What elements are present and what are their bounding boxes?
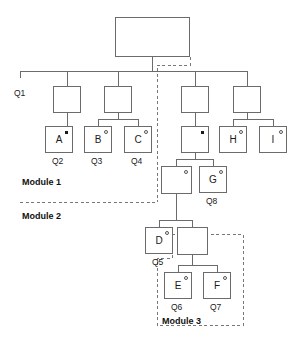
node-box-n5[interactable] (181, 126, 209, 153)
node-box-n4[interactable] (233, 86, 261, 113)
node-label: A (46, 135, 72, 145)
tree-diagram: ABCHIGDEF Q1Q2Q3Q4Q8Q5Q6Q7 Module 1Modul… (0, 0, 300, 338)
node-box-n6[interactable] (161, 166, 192, 194)
open-circle-marker-icon (104, 130, 108, 134)
question-label-q2: Q2 (52, 157, 63, 166)
node-label: I (260, 135, 286, 145)
node-box-a[interactable]: A (45, 126, 73, 153)
node-box-c[interactable]: C (124, 126, 152, 153)
asterisk-marker-icon (65, 131, 68, 134)
module-label-3: Module 3 (162, 317, 201, 326)
open-circle-marker-icon (184, 276, 188, 280)
question-label-q5: Q5 (152, 258, 163, 267)
question-label-q3: Q3 (91, 157, 102, 166)
node-box-b[interactable]: B (84, 126, 112, 153)
node-label: B (85, 135, 111, 145)
open-circle-marker-icon (184, 170, 188, 174)
question-label-q8: Q8 (206, 197, 217, 206)
node-label: G (200, 175, 226, 185)
node-box-h[interactable]: H (219, 126, 247, 153)
node-box-e[interactable]: E (164, 272, 192, 299)
module-label-2: Module 2 (22, 212, 61, 221)
open-circle-marker-icon (165, 231, 169, 235)
node-box-f[interactable]: F (203, 272, 231, 299)
node-box-g[interactable]: G (199, 166, 227, 193)
question-label-q7: Q7 (210, 303, 221, 312)
node-label: C (125, 135, 151, 145)
question-label-q1: Q1 (14, 89, 25, 98)
node-label: D (146, 236, 172, 246)
node-box-n3[interactable] (181, 86, 209, 113)
node-box-n1[interactable] (53, 86, 81, 113)
module-label-1: Module 1 (22, 178, 61, 187)
question-label-q4: Q4 (131, 157, 142, 166)
node-box-d[interactable]: D (145, 227, 173, 254)
open-circle-marker-icon (219, 170, 223, 174)
node-box-root[interactable] (115, 17, 190, 57)
question-label-q6: Q6 (171, 303, 182, 312)
node-box-i[interactable]: I (259, 126, 287, 153)
open-circle-marker-icon (144, 130, 148, 134)
node-label: H (220, 135, 246, 145)
asterisk-marker-icon (201, 131, 204, 134)
open-circle-marker-icon (223, 276, 227, 280)
node-label: E (165, 281, 191, 291)
open-circle-marker-icon (279, 130, 283, 134)
node-box-n7[interactable] (177, 227, 208, 255)
node-label: F (204, 281, 230, 291)
node-box-n2[interactable] (104, 86, 132, 113)
open-circle-marker-icon (239, 130, 243, 134)
